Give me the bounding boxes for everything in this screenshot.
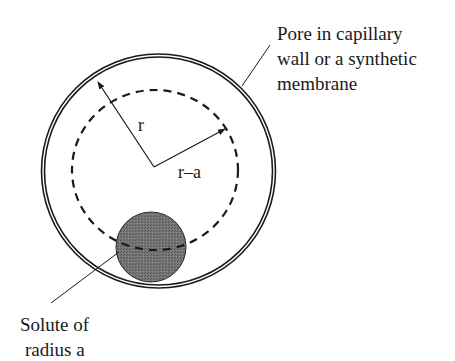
pore-label-line-1: Pore in capillary [277,23,403,44]
solute-label-line-1: Solute of [20,314,90,335]
radius-r-minus-a-label: r–a [178,162,201,182]
solute-particle [116,212,186,282]
radius-r-label: r [138,115,144,135]
pore-label-line-2: wall or a synthetic [277,48,417,69]
pore-label-line-3: membrane [277,73,357,94]
pore-leader-line [242,45,270,86]
pore-diagram: r r–a Pore in capillary wall or a synthe… [0,0,455,361]
pore-label: Pore in capillary wall or a synthetic me… [277,23,417,94]
solute-label-line-2: radius a [25,339,85,360]
solute-label: Solute of radius a [20,314,90,360]
